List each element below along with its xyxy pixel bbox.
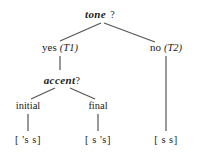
leaf-label-initial: initial [16,101,41,112]
edge-tone-to-yes [60,23,101,41]
root-question-mark: ? [110,9,115,20]
sub-question-mark: ? [75,75,80,86]
transcription-initial: [ 's s] [15,135,41,146]
root-question-tone: tone? [85,9,115,20]
branch-yes-label: yes [42,41,57,53]
edge-accent-to-initial [31,88,55,99]
decision-tree-diagram: tone? yes(T1) no(T2) accent? initial fin… [0,0,200,156]
sub-question-accent: accent? [44,75,81,86]
transcription-final: [ s 's] [85,135,111,146]
leaf-label-final: final [88,101,107,112]
branch-yes-tag: (T1) [60,42,78,53]
sub-question-label: accent [44,74,76,86]
branch-no-tag: (T2) [164,42,182,53]
edge-accent-to-final [70,88,95,99]
edge-tone-to-no [104,23,155,42]
tree-edge-layer [0,0,200,156]
branch-no: no(T2) [150,42,182,54]
branch-yes: yes(T1) [42,42,78,54]
transcription-no-tone: [ s s] [154,135,177,146]
root-question-label: tone [85,8,106,20]
branch-no-label: no [150,41,161,53]
